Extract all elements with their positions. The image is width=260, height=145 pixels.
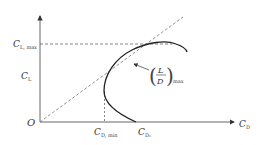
svg-text:L: L xyxy=(157,66,163,75)
cl-axis-label: CL xyxy=(21,71,32,82)
cd-min-label: CD, min xyxy=(94,127,118,138)
origin-label: O xyxy=(27,117,35,128)
drag-polar-diagram: O CL, max CL CD, min CD₀ CD ( L D ) max xyxy=(0,0,260,145)
ld-max-label: ( L D ) max xyxy=(149,64,184,88)
ld-max-pointer-arrow xyxy=(134,64,149,70)
svg-text:(: ( xyxy=(149,64,157,88)
svg-text:max: max xyxy=(173,78,184,84)
cd0-label: CD₀ xyxy=(138,127,151,138)
cd-axis-label: CD xyxy=(239,119,250,130)
svg-text:): ) xyxy=(166,64,174,88)
svg-text:D: D xyxy=(156,77,164,86)
cl-max-label: CL, max xyxy=(13,39,37,50)
